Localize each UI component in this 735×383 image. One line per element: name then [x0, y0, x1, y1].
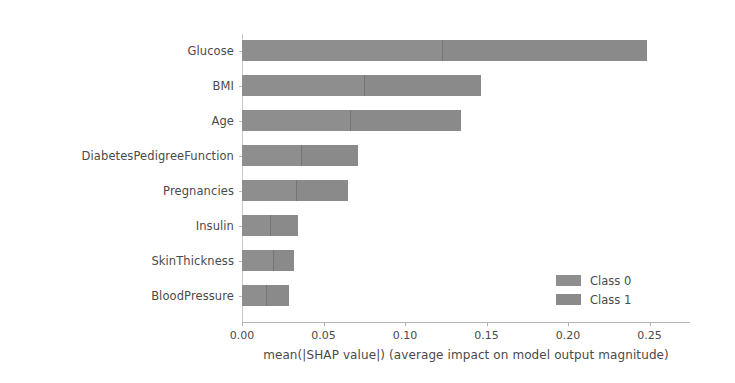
- y-tick-label-skinthickness: SkinThickness: [0, 254, 234, 268]
- y-tick-mark: [239, 261, 242, 262]
- bar-segment-class-0: [242, 215, 270, 236]
- y-tick-label-bmi: BMI: [0, 79, 234, 93]
- y-tick-mark: [239, 296, 242, 297]
- bar-segment-class-1: [273, 250, 294, 271]
- bar-segment-class-0: [242, 75, 364, 96]
- bar-segment-class-0: [242, 285, 266, 306]
- y-tick-mark: [239, 86, 242, 87]
- y-tick-mark: [239, 191, 242, 192]
- legend-item-class-0: Class 0: [556, 272, 676, 289]
- x-tick-label-0.20: 0.20: [556, 329, 581, 342]
- x-tick-mark: [568, 322, 569, 326]
- x-tick-label-0.10: 0.10: [393, 329, 418, 342]
- x-tick-mark: [324, 322, 325, 326]
- y-tick-mark: [239, 226, 242, 227]
- legend-label: Class 1: [590, 293, 631, 307]
- x-tick-label-0.05: 0.05: [311, 329, 336, 342]
- y-tick-mark: [239, 121, 242, 122]
- y-tick-label-diabetespedigreefunction: DiabetesPedigreeFunction: [0, 149, 234, 163]
- x-tick-mark: [650, 322, 651, 326]
- y-tick-label-glucose: Glucose: [0, 44, 234, 58]
- bar-segment-class-1: [296, 180, 348, 201]
- y-tick-mark: [239, 156, 242, 157]
- bar-segment-class-1: [364, 75, 481, 96]
- legend-label: Class 0: [590, 274, 631, 288]
- y-tick-label-insulin: Insulin: [0, 219, 234, 233]
- legend-item-class-1: Class 1: [556, 291, 676, 308]
- bar-segment-class-1: [442, 40, 647, 61]
- bar-segment-class-0: [242, 110, 350, 131]
- x-tick-mark: [242, 322, 243, 326]
- y-tick-label-bloodpressure: BloodPressure: [0, 289, 234, 303]
- x-tick-label-0.25: 0.25: [637, 329, 662, 342]
- bar-segment-class-1: [270, 215, 298, 236]
- x-tick-label-0.00: 0.00: [230, 329, 255, 342]
- y-tick-label-age: Age: [0, 114, 234, 128]
- y-tick-mark: [239, 51, 242, 52]
- bar-segment-class-1: [350, 110, 461, 131]
- bar-segment-class-0: [242, 40, 442, 61]
- bar-segment-class-0: [242, 145, 301, 166]
- y-tick-label-pregnancies: Pregnancies: [0, 184, 234, 198]
- chart-legend: Class 0Class 1: [556, 272, 676, 310]
- bar-segment-class-0: [242, 250, 273, 271]
- bar-segment-class-0: [242, 180, 296, 201]
- x-tick-mark: [405, 322, 406, 326]
- bar-segment-class-1: [301, 145, 358, 166]
- legend-swatch-icon: [556, 275, 581, 286]
- x-tick-mark: [487, 322, 488, 326]
- bar-segment-class-1: [266, 285, 289, 306]
- x-axis-title: mean(|SHAP value|) (average impact on mo…: [242, 348, 690, 362]
- legend-swatch-icon: [556, 294, 581, 305]
- x-axis-spine: [242, 322, 690, 323]
- shap-summary-bar-chart: GlucoseBMIAgeDiabetesPedigreeFunctionPre…: [0, 0, 735, 383]
- x-tick-label-0.15: 0.15: [474, 329, 499, 342]
